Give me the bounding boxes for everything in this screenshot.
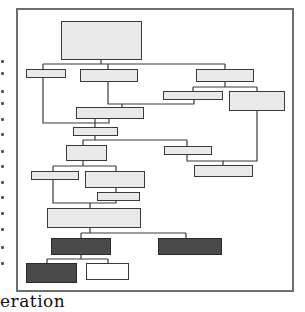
cropped-text-mark [1, 102, 4, 105]
flowchart-node-n5 [163, 91, 223, 100]
cropped-text-mark [1, 133, 4, 136]
connector-line [81, 228, 186, 238]
cropped-text-mark [1, 118, 4, 121]
caption-fragment: eration [0, 291, 65, 311]
cropped-text-mark [1, 72, 4, 75]
cropped-text-mark [1, 228, 4, 231]
cropped-text-mark [1, 60, 4, 63]
connector-line [193, 82, 257, 91]
flowchart-node-n11 [194, 165, 253, 177]
connector-line [47, 255, 108, 263]
cropped-text-mark [1, 246, 4, 249]
cropped-text-mark [1, 212, 4, 215]
cropped-text-mark [1, 165, 4, 168]
connector-line [187, 155, 223, 165]
flowchart-node-n8 [73, 127, 118, 136]
cropped-text-mark [1, 150, 4, 153]
flowchart-node-n13 [85, 171, 145, 188]
flowchart-node-n19 [86, 263, 129, 280]
cropped-text-mark [1, 181, 4, 184]
flowchart-node-n6 [229, 91, 285, 111]
flowchart-node-n2 [26, 69, 66, 78]
connector-line [53, 161, 116, 171]
flowchart-node-n10 [164, 146, 212, 155]
cropped-text-mark [1, 90, 4, 93]
flowchart-node-n18 [26, 263, 77, 283]
cropped-text-mark [1, 262, 4, 265]
cropped-text-mark [1, 196, 4, 199]
flowchart-node-n3 [80, 69, 138, 82]
flowchart-node-n15 [47, 208, 141, 228]
flowchart-node-n9 [66, 145, 107, 161]
flowchart-node-n1 [61, 21, 142, 60]
flowchart-node-n7 [76, 107, 144, 119]
flowchart-node-n16 [51, 238, 111, 255]
flowchart-node-n12 [31, 171, 79, 180]
connector-line [223, 111, 257, 161]
connector-line [43, 60, 225, 69]
flowchart-node-n14 [97, 192, 140, 201]
flowchart-node-n17 [158, 238, 222, 255]
flowchart-node-n4 [196, 69, 254, 82]
